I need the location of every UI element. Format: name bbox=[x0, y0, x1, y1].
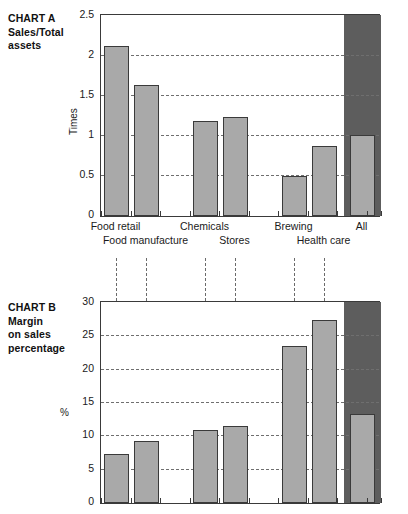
y-tick-label: 25 bbox=[82, 328, 94, 340]
bar-stores bbox=[223, 117, 248, 216]
x-tick-mark bbox=[160, 498, 161, 503]
two-panel-bar-figure: CHART A Sales/Total assets Times 00.511.… bbox=[0, 0, 408, 514]
category-label-health-care: Health care bbox=[264, 234, 384, 246]
bar-food-retail bbox=[104, 46, 129, 216]
x-tick-mark bbox=[381, 211, 382, 216]
chart-b-title: CHART B Margin on sales percentage bbox=[8, 301, 94, 355]
x-tick-mark bbox=[308, 498, 309, 503]
gridline bbox=[101, 369, 379, 370]
bar-food-retail bbox=[104, 454, 129, 503]
x-tick-mark bbox=[219, 211, 220, 216]
chart-a: CHART A Sales/Total assets Times 00.511.… bbox=[0, 0, 408, 250]
x-tick-mark bbox=[367, 211, 368, 216]
bar-health-care bbox=[312, 146, 337, 216]
y-tick-label: 1 bbox=[88, 128, 94, 140]
y-tick-label: 0 bbox=[88, 495, 94, 507]
x-tick-mark bbox=[367, 498, 368, 503]
y-tick-label: 1.5 bbox=[79, 88, 94, 100]
chart-b-plot-area bbox=[100, 301, 380, 504]
chart-b: CHART B Margin on sales percentage % 051… bbox=[0, 295, 408, 514]
x-tick-mark bbox=[337, 211, 338, 216]
chart-b-y-axis-title: % bbox=[60, 407, 69, 418]
gridline bbox=[101, 402, 379, 403]
category-label-all: All bbox=[302, 220, 408, 232]
bar-health-care bbox=[312, 320, 337, 503]
x-tick-mark bbox=[190, 211, 191, 216]
bar-chemicals bbox=[193, 121, 218, 216]
y-tick-label: 30 bbox=[82, 295, 94, 307]
y-tick-label: 15 bbox=[82, 395, 94, 407]
x-tick-mark bbox=[381, 498, 382, 503]
x-tick-mark bbox=[337, 498, 338, 503]
x-tick-mark bbox=[249, 498, 250, 503]
gridline bbox=[101, 335, 379, 336]
x-tick-mark bbox=[190, 498, 191, 503]
bar-food-manufacture bbox=[134, 85, 159, 216]
bar-brewing bbox=[282, 176, 307, 216]
bar-all bbox=[350, 135, 375, 216]
x-tick-mark bbox=[278, 498, 279, 503]
x-tick-mark bbox=[278, 211, 279, 216]
bar-food-manufacture bbox=[134, 441, 159, 503]
bar-stores bbox=[223, 426, 248, 503]
chart-a-y-axis-title: Times bbox=[68, 108, 79, 135]
y-tick-label: 2.5 bbox=[79, 8, 94, 20]
x-tick-mark bbox=[249, 211, 250, 216]
bar-brewing bbox=[282, 346, 307, 503]
y-tick-label: 0 bbox=[88, 208, 94, 220]
bar-chemicals bbox=[193, 430, 218, 503]
x-tick-mark bbox=[131, 211, 132, 216]
chart-a-plot-area bbox=[100, 14, 380, 217]
y-tick-label: 20 bbox=[82, 362, 94, 374]
x-tick-mark bbox=[131, 498, 132, 503]
y-tick-label: 10 bbox=[82, 428, 94, 440]
x-tick-mark bbox=[308, 211, 309, 216]
x-tick-mark bbox=[101, 211, 102, 216]
gridline bbox=[101, 55, 379, 56]
x-tick-mark bbox=[160, 211, 161, 216]
x-tick-mark bbox=[219, 498, 220, 503]
y-tick-label: 5 bbox=[88, 462, 94, 474]
bar-all bbox=[350, 414, 375, 503]
x-tick-mark bbox=[101, 498, 102, 503]
y-tick-label: 2 bbox=[88, 48, 94, 60]
y-tick-label: 0.5 bbox=[79, 168, 94, 180]
